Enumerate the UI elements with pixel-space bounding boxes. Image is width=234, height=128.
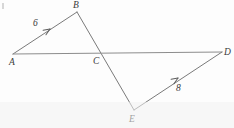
vertex-label-e: E [129, 115, 135, 125]
measure-label-ed: 8 [176, 84, 181, 94]
segment-ed [134, 52, 222, 110]
vertex-label-a: A [9, 58, 15, 68]
vertex-label-b: B [73, 1, 79, 11]
segments-group [13, 12, 222, 110]
measure-label-ab: 6 [33, 19, 38, 29]
vertex-label-d: D [224, 48, 231, 58]
segment-ad [13, 52, 222, 54]
vertex-label-c: C [93, 57, 99, 67]
segment-ab [13, 12, 77, 54]
segment-be [77, 12, 134, 110]
geometry-figure: A B C D E 6 8 [0, 0, 234, 128]
